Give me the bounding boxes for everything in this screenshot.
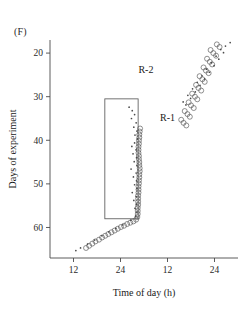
data-point-dot [131,192,133,194]
data-point-dot [131,110,133,112]
data-point-dot [136,157,138,159]
series-label-r-1: R-1 [160,112,175,123]
data-point-dot [115,228,117,230]
data-point-dot [215,55,217,57]
series-annotations-group: R-2R-1 [138,64,175,123]
data-point-dot [135,149,137,151]
actogram-plot: 2030405060 12241224 R-2R-1 Time of day (… [0,0,245,323]
data-point-dot [196,81,198,83]
x-tick-label: 12 [163,265,173,275]
x-axis-title: Time of day (h) [113,287,176,299]
data-point-dot [136,204,138,206]
data-point-dot [218,58,220,60]
data-point-dot [130,168,132,170]
data-point-dot [133,176,135,178]
y-axis-ticks: 2030405060 [34,48,51,232]
data-point-dot [206,68,208,70]
data-point-dot [199,84,201,86]
actogram-figure: (F) 2030405060 12241224 R-2R-1 Time of d… [0,0,245,323]
y-tick-label: 20 [34,48,44,58]
data-point-dot [132,153,134,155]
data-point-dot [192,88,194,90]
data-point-dot [229,42,231,44]
data-point-dot [211,62,213,64]
data-point-dot [128,106,130,108]
data-point-dot [136,165,138,167]
data-point-dot [187,95,189,97]
data-point-dot [194,91,196,93]
y-tick-label: 40 [34,136,44,146]
data-point-dot [94,239,96,241]
data-point-dot [136,138,138,140]
data-point-dot [136,180,138,182]
x-tick-label: 24 [116,265,126,275]
data-point-dot [182,101,184,103]
data-point-dot [204,78,206,80]
series-label-r-2: R-2 [138,64,153,75]
data-point-dot [131,146,133,148]
data-point-circle [208,48,213,53]
data-point-circle [128,220,133,225]
data-point-circle [205,56,210,61]
data-point-dot [130,219,132,221]
data-point-dot [75,250,77,252]
data-point-dot [133,161,135,163]
data-point-dot [133,200,135,202]
y-axis-title: Days of experiment [7,109,18,188]
data-point-dot [220,49,222,51]
data-point-dot [80,247,82,249]
data-point-dot [190,98,192,100]
data-point-dot [135,172,137,174]
data-point-circle [190,91,195,96]
data-point-dot [134,184,136,186]
data-point-dot [201,75,203,77]
data-point-dot [133,126,135,128]
data-point-dot [223,52,225,54]
x-axis-ticks: 12241224 [69,258,220,275]
data-point-dot [136,211,138,213]
data-point-circle [182,109,187,114]
data-point-dot [213,65,215,67]
data-point-dot [225,45,227,47]
y-tick-label: 50 [34,179,44,189]
x-tick-label: 24 [210,265,220,275]
data-point-dot [136,188,138,190]
data-point-dot [108,231,110,233]
y-tick-label: 30 [34,92,44,102]
data-point-dot [134,207,136,209]
data-point-dot [134,114,136,116]
data-point-dot [87,243,89,245]
x-tick-label: 12 [69,265,79,275]
data-point-dot [134,142,136,144]
data-point-dot [131,118,133,120]
y-tick-label: 60 [34,223,44,233]
data-point-dot [135,196,137,198]
data-point-dot [134,134,136,136]
data-point-dot [209,71,211,73]
data-point-dot [122,224,124,226]
data-point-dot [136,130,138,132]
data-point-dot [185,104,187,106]
data-point-dot [135,215,137,217]
data-point-dot [135,122,137,124]
data-point-dot [101,235,103,237]
